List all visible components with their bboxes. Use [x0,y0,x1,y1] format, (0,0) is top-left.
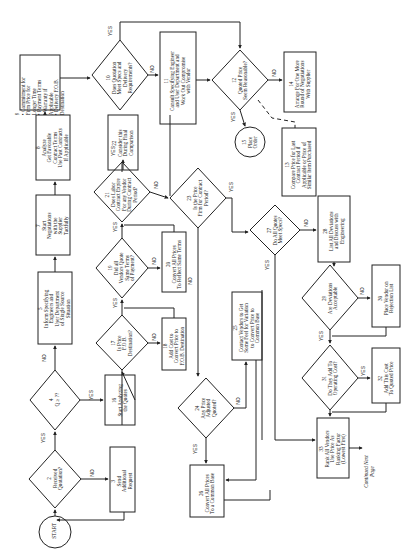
process-32-label: 32 Add This Cost To Quoted Price [378,352,395,404]
start-label: START [52,511,58,551]
process-26-label: 26 Convert All Prices To a Common Base [199,468,216,518]
edge-label-no: NO [271,69,277,77]
process-22-label: 22 Consider this During Final Comparison [112,118,134,168]
decision-29-label: 29 Are Deviations Acceptable [322,276,339,320]
continued-next-page: Continued Next Page [364,454,375,490]
decision-21-label: 21 Does Labor Contract Expire For any Ve… [105,169,139,221]
process-30-label: 30 Place Vendor on Rejection List [378,272,395,324]
edge-label-yes: YES [264,260,270,270]
decision-27-label: 27 Do All Quotes Meet Specs? [267,210,284,250]
edge-label-yes: YES [112,222,118,232]
edge-label-no: NO [359,287,365,295]
process-3-label: 3 Send Additional Request [111,451,133,511]
terminal-15-label: 15 Place Order [242,127,259,157]
decision-31-label: 31 Do They Add To Operating Cost? [322,353,339,403]
decision-2-label: 2 Received Quotation? [47,453,64,503]
process-20-label: 20 Convert All Prices To Reflect Same Te… [166,234,183,294]
edge-label-yes: YES [228,182,234,192]
edge-label-no: NO [153,181,159,189]
edge-label-yes: YES [110,146,116,156]
process-25-label: 25 Contact Vendors to Get Some Feel for … [233,294,261,362]
process-9-label: 9 • Commitment for Firm Price for Longer… [15,59,65,115]
edge-label-yes: YES [192,444,198,454]
edge-label-no: NO [303,219,309,227]
process-14-label: 14 Arrange For One More Round of Negotia… [289,54,311,114]
process-11-label: 11 Consult Specifying Engineer and User … [164,37,192,125]
process-7-label: 7 Start Negotiations with the Supplier T… [36,196,70,256]
decision-17-label: 17 Is Price F.O.B. Destination? [111,321,133,365]
edge-label-no: NO [41,354,47,362]
decision-19-label: 19 Did all Vendors Quote Same Terms of P… [108,244,136,292]
decision-24-label: 24 Any Price Adjusted Quoted? [195,388,217,428]
decision-23-label: 23 Is the Price Firm for Contract Period… [187,172,209,224]
process-33-label: 33 Rank All Vendors Use Price As Ranking… [319,419,347,479]
process-8-label: 8 Analyze Get Favorable Contract Terms U… [36,115,70,181]
decision-12-label: 12 Quoted Price Seem Reasonable? [232,55,249,105]
edge-label-no: NO [149,65,155,73]
edge-label-yes: YES [112,298,118,308]
edge-label-no: NO [187,277,193,285]
edge-label-no: NO [235,397,241,405]
edge-label-no: NO [89,469,95,477]
process-5-label: 5 Inform Specifying Engineers and User D… [38,274,72,344]
edge-label-no: NO [151,257,157,265]
edge-label-yes: YES [40,433,46,443]
edge-label-yes: YES [360,366,366,376]
decision-4-label: 4 Q ≥ ?? [49,380,60,420]
process-13-label: 13 Compare Price for Last Contract Perio… [285,131,313,199]
edge-label-no: NO [151,333,157,341]
process-18-label: 18 Add Cost to Convert Price to F.O.B. D… [163,322,185,370]
process-16-label: 16 Start Analyzing the Quotes [112,376,129,424]
edge-label-yes: YES [107,26,113,36]
decision-10-label: 10 Does Quotation Meet Specs and Deliver… [106,50,134,106]
edge-label-yes: YES [318,331,324,341]
edge-label-yes: YES [88,390,94,400]
edge-label-yes: YES [230,112,236,122]
process-28-label: 28 List All Deviations and Discuss with … [323,199,345,263]
